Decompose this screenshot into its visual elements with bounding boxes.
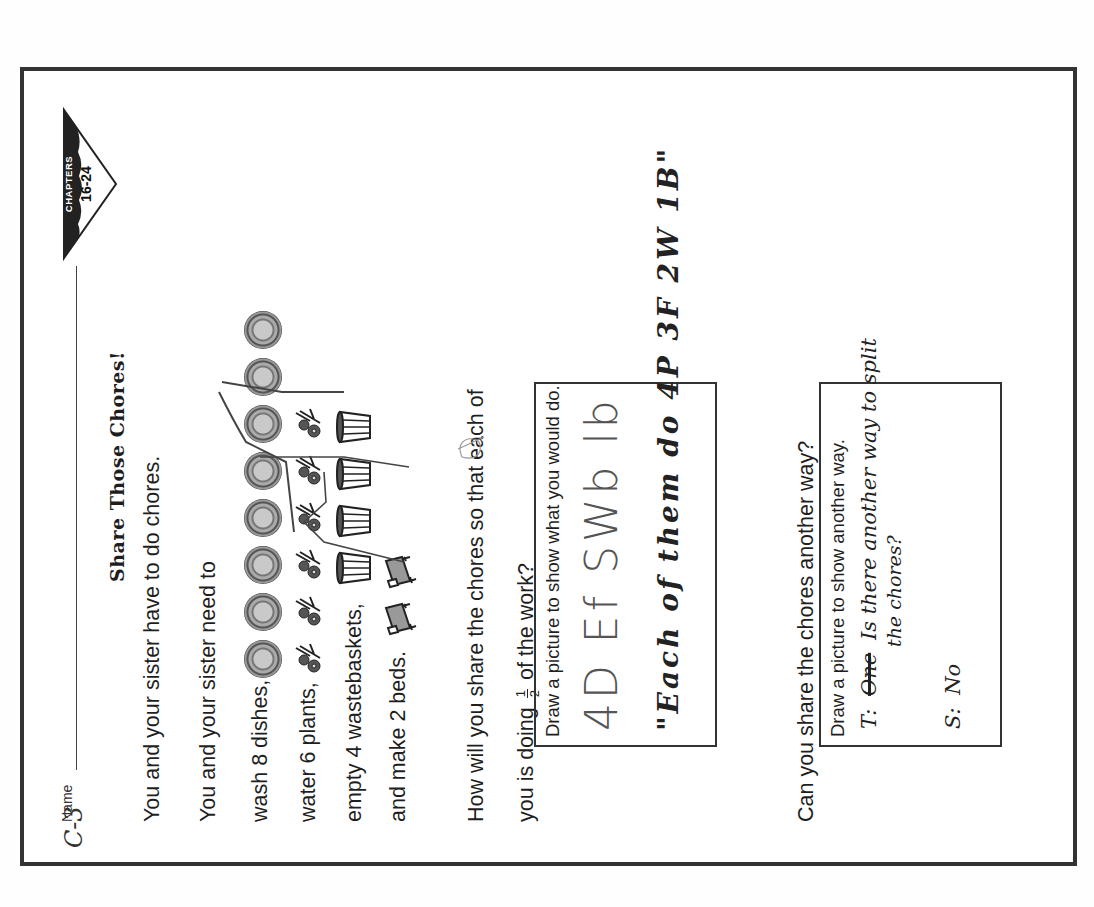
teacher-question-line-2: the chores? (883, 535, 905, 647)
question-2: Can you share the chores another way? (794, 441, 819, 822)
wastebasket-icon (336, 455, 374, 493)
task-intro-text: You and your sister need to (196, 561, 221, 822)
chore-plants-text: water 6 plants, (296, 682, 321, 822)
chore-dishes-text: wash 8 dishes, (248, 680, 273, 822)
dish-icon (244, 452, 282, 490)
answer-box-1-prompt: Draw a picture to show what you would do… (542, 385, 564, 737)
teacher-question: T: One Is there another way to split (857, 338, 881, 729)
plant-icon (290, 452, 328, 490)
teacher-prefix: T: (857, 709, 881, 729)
plant-icon (290, 546, 328, 584)
dish-icon (244, 640, 282, 678)
worksheet-title: Share Those Chores! (106, 71, 128, 862)
chapter-tag-range: 16-24 (78, 108, 94, 260)
bed-icon (380, 600, 418, 638)
beds-row (380, 553, 418, 638)
name-field-line[interactable] (76, 266, 77, 770)
teacher-transcription-1: "Each of them do 4P 3F 2W 1B" (652, 146, 685, 731)
dish-icon (244, 499, 282, 537)
worksheet-page: C-3 Name CHAPTERS 16-24 Share Those Chor… (20, 67, 1077, 866)
intro-text: You and your sister have to do chores. (140, 456, 165, 822)
wastebaskets-row (336, 408, 374, 587)
wastebasket-icon (336, 408, 374, 446)
chore-wastebaskets-text: empty 4 wastebaskets, (342, 603, 367, 822)
dishes-row (244, 311, 282, 678)
bed-icon (380, 553, 418, 591)
scribbled-word: One (857, 653, 881, 696)
plant-icon (290, 640, 328, 678)
student-answer: S: No (941, 664, 965, 729)
dish-icon (244, 358, 282, 396)
wastebasket-icon (336, 502, 374, 540)
answer-box-2[interactable]: Draw a picture to show another way. T: O… (819, 382, 1002, 747)
wastebasket-icon (336, 549, 374, 587)
plant-icon (290, 593, 328, 631)
plants-row (290, 405, 328, 678)
dish-icon (244, 405, 282, 443)
student-handwriting-1: 4D Ef SWb lb (576, 396, 627, 731)
scanned-worksheet: C-3 Name CHAPTERS 16-24 Share Those Chor… (0, 0, 1094, 907)
plant-icon (290, 499, 328, 537)
student-answer-text: No (941, 664, 965, 695)
dish-icon (244, 311, 282, 349)
chore-beds-text: and make 2 beds. (386, 651, 411, 822)
student-prefix: S: (941, 708, 965, 729)
answer-box-1[interactable]: Draw a picture to show what you would do… (534, 382, 717, 747)
name-label: Name (59, 785, 75, 822)
chapter-tag-label: CHAPTERS (63, 108, 74, 260)
fraction-numerator: 1 (514, 689, 528, 698)
plant-icon (290, 405, 328, 443)
pencil-doodle-icon (454, 427, 494, 467)
dish-icon (244, 593, 282, 631)
teacher-question-text: Is there another way to split (857, 338, 881, 640)
dish-icon (244, 546, 282, 584)
answer-box-2-prompt: Draw a picture to show another way. (827, 439, 849, 737)
